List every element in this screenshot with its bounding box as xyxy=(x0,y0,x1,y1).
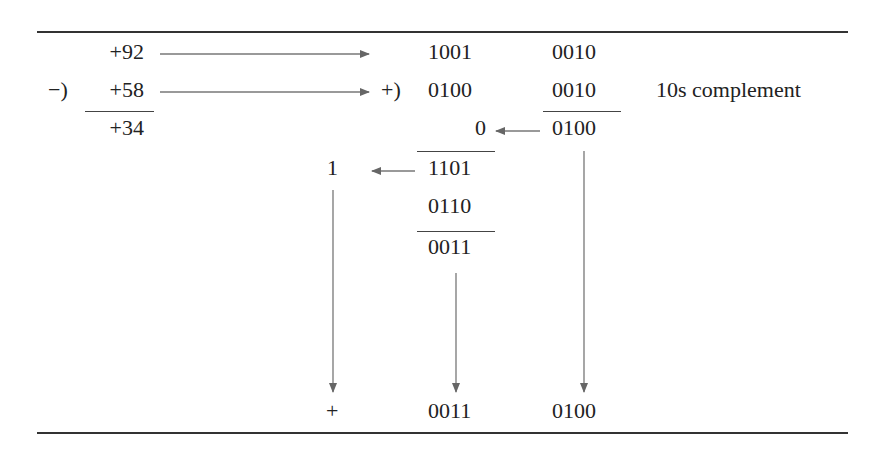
arrows-layer xyxy=(0,0,888,455)
